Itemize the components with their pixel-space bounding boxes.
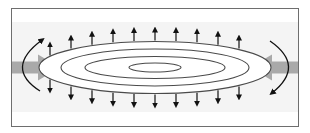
flow-diagram: [0, 0, 310, 133]
